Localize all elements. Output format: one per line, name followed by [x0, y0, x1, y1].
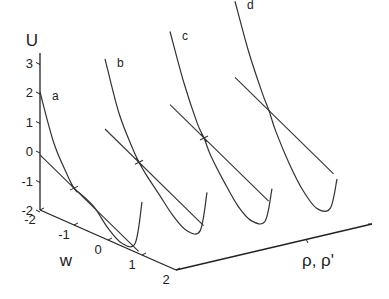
u-tick-label: 2: [26, 85, 33, 100]
u-tick-label: 3: [26, 56, 33, 71]
curve-label-c: c: [182, 29, 188, 43]
tangent-line-a: [40, 155, 139, 252]
potential-3d-chart: 3210-1-2-2-1012 abcd U w ρ, ρ': [0, 0, 389, 299]
marker-b: [135, 160, 143, 164]
w-tick-label: 2: [162, 272, 169, 287]
w-tick-label: 0: [94, 242, 101, 257]
w-tick-label: 1: [128, 257, 135, 272]
curve-label-a: a: [52, 89, 59, 103]
w-tick-label: -2: [24, 212, 36, 227]
tangent-line-c: [170, 105, 269, 202]
marker-a: [70, 186, 78, 190]
tangent-line-d: [235, 77, 334, 174]
tick-group: 3210-1-2-2-1012: [21, 56, 180, 288]
curve-d: [235, 1, 337, 211]
w-tick-label: -1: [58, 227, 70, 242]
rho-axis-label: ρ, ρ': [302, 251, 334, 270]
u-tick-label: 0: [26, 144, 33, 159]
curve-label-d: d: [247, 0, 254, 12]
tangent-line-b: [105, 129, 204, 226]
u-tick-label: -1: [21, 174, 33, 189]
w-tick: [142, 253, 146, 255]
rho-axis: [176, 224, 372, 270]
w-tick: [108, 238, 112, 240]
curve-group: abcd: [40, 0, 337, 251]
curve-c: [170, 32, 272, 225]
u-tick: [36, 210, 40, 212]
u-axis-label: U: [26, 31, 38, 50]
curve-label-b: b: [117, 56, 124, 70]
axes: [40, 53, 372, 270]
u-tick-label: 1: [26, 115, 33, 130]
curve-b: [105, 59, 207, 234]
w-axis-label: w: [59, 251, 73, 270]
w-tick: [74, 223, 78, 225]
